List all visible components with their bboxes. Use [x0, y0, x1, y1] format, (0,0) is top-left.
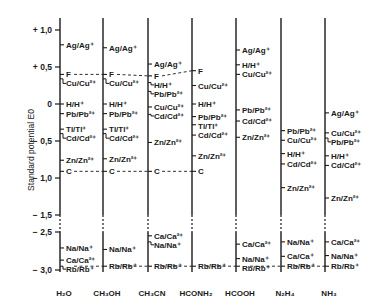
couple-label: Zn/Zn²⁺ [331, 194, 359, 203]
couple-label: Rb/Rb⁺ [66, 265, 94, 274]
solvent-label: CH₃OH [93, 289, 120, 298]
solvent-columns: Ag/Ag⁺FCu/Cu²⁺H/H⁺Pb/Pb²⁺Tl/Tl⁺Cd/Cd²⁺Zn… [60, 18, 361, 274]
y-tick-label: − 1,5 [33, 210, 52, 220]
couple-label: Cd/Cd²⁺ [198, 131, 228, 140]
solvent-labels: H₂OCH₃OHCH₃CNHCONH₂HCOOHN₂H₄NH₃ [56, 289, 337, 298]
couple-label: Rb/Rb⁺ [242, 264, 270, 273]
couple-label: Pb/Pb²⁺ [109, 110, 138, 119]
couple-label: H/H⁺ [242, 61, 260, 70]
couple-label: Ca/Ca²⁺ [331, 238, 360, 247]
couple-label: Ag/Ag⁺ [242, 46, 270, 55]
column-ch3oh: Ag/Ag⁺FCu/Cu²⁺H/H⁺Pb/Pb²⁺Tl/Tl⁺Cd/Cd²⁺Zn… [103, 18, 139, 272]
couple-label: Tl/Tl⁺ [66, 125, 86, 134]
couple-label: Na/Na⁺ [331, 252, 358, 261]
couple-label: Zn/Zn²⁺ [109, 155, 137, 164]
couple-label: F [154, 72, 159, 81]
couple-label: Tl/Tl⁺ [109, 125, 129, 134]
couple-label: F [198, 67, 203, 76]
couple-label: Rb/Rb⁺ [287, 262, 315, 271]
column-nh3: Ag/Ag⁺Cu/Cu²⁺Pb/Pb²⁺H/H⁺Cd/Cd²⁺Zn/Zn²⁺Ca… [325, 18, 361, 272]
couple-label: Cu/Cu²⁺ [198, 82, 228, 91]
column-h2o: Ag/Ag⁺FCu/Cu²⁺H/H⁺Pb/Pb²⁺Tl/Tl⁺Cd/Cd²⁺Zn… [60, 18, 96, 274]
column-hcooh: Ag/Ag⁺H/H⁺Cu/Cu²⁺Pb/Pb²⁺Cd/Cd²⁺Zn/Zn²⁺Ca… [236, 18, 272, 273]
y-axis: + 1,0+ 0,50− 0,5− 1,0− 1,5− 2,5− 3,0 [33, 25, 60, 275]
couple-label: C [109, 167, 115, 176]
couple-label: Cu/Cu²⁺ [287, 136, 317, 145]
couple-label: Cu/Cu²⁺ [66, 79, 96, 88]
couple-label: Ag/Ag⁺ [331, 109, 359, 118]
couple-label: Cd/Cd²⁺ [287, 160, 317, 169]
couple-label: Rb/Rb⁺ [198, 262, 226, 271]
couple-label: Pb/Pb²⁺ [154, 90, 183, 99]
solvent-label: H₂O [56, 289, 72, 298]
couple-label: Ca/Ca²⁺ [154, 232, 183, 241]
standard-potential-diagram: + 1,0+ 0,50− 0,5− 1,0− 1,5− 2,5− 3,0 Sta… [0, 0, 369, 307]
solvent-label: CH₃CN [139, 289, 166, 298]
couple-label: Zn/Zn²⁺ [287, 184, 315, 193]
couple-label: Ca/Ca²⁺ [242, 240, 271, 249]
couple-label: H/H⁺ [66, 100, 84, 109]
couple-label: H/H⁺ [154, 81, 172, 90]
couple-label: Rb/Rb⁺ [331, 262, 359, 271]
couple-label: Ag/Ag⁺ [154, 60, 182, 69]
column-hconh2: FCu/Cu²⁺H/H⁺Pb/Pb²⁺Tl/Tl⁺Cd/Cd²⁺Zn/Zn²⁺C… [192, 18, 228, 272]
couple-label: Cd/Cd²⁺ [109, 134, 139, 143]
couple-label: Cd/Cd²⁺ [154, 112, 184, 121]
column-ch3cn: Ag/Ag⁺FH/H⁺Pb/Pb²⁺Cu/Cu²⁺Cd/Cd²⁺Zn/Zn²⁺C… [148, 18, 184, 272]
y-tick-label: + 1,0 [33, 25, 52, 35]
couple-label: H/H⁺ [198, 100, 216, 109]
couple-label: Na/Na⁺ [154, 241, 181, 250]
couple-label: Zn/Zn²⁺ [242, 133, 270, 142]
reference-line-f [117, 74, 148, 75]
solvent-label: N₂H₄ [276, 289, 295, 298]
couple-label: Ag/Ag⁺ [109, 44, 137, 53]
couple-label: Pb/Pb²⁺ [287, 127, 316, 136]
solvent-label: HCONH₂ [180, 289, 213, 298]
couple-label: Na/Na⁺ [109, 245, 136, 254]
couple-label: Zn/Zn²⁺ [66, 156, 94, 165]
couple-label: Na/Na⁺ [242, 255, 269, 264]
couple-label: Na/Na⁺ [66, 244, 93, 253]
column-n2h4: Pb/Pb²⁺Cu/Cu²⁺H/H⁺Cd/Cd²⁺Zn/Zn²⁺Na/Na⁺Ca… [281, 18, 317, 272]
couple-label: Cd/Cd²⁺ [331, 161, 361, 170]
couple-label: Rb/Rb⁺ [109, 262, 137, 271]
couple-label: Ag/Ag⁺ [66, 41, 94, 50]
couple-label: F [66, 70, 71, 79]
couple-label: Na/Na⁺ [287, 238, 314, 247]
couple-label: H/H⁺ [331, 152, 349, 161]
couple-label: Tl/Tl⁺ [198, 122, 218, 131]
y-tick-label: + 0,5 [33, 62, 52, 72]
couple-label: Cu/Cu²⁺ [109, 79, 139, 88]
couple-label: Cu/Cu²⁺ [154, 103, 184, 112]
solvent-label: NH₃ [321, 289, 337, 298]
couple-label: Cu/Cu²⁺ [242, 70, 272, 79]
couple-label: Pb/Pb²⁺ [198, 113, 227, 122]
couple-label: Zn/Zn²⁺ [198, 152, 226, 161]
couple-label: Pb/Pb²⁺ [331, 138, 360, 147]
couple-label: Pb/Pb²⁺ [66, 110, 95, 119]
y-tick-label: − 2,5 [33, 227, 52, 237]
y-axis-label: Standard potential E0 [26, 109, 36, 191]
couple-label: Cd/Cd²⁺ [242, 117, 272, 126]
couple-label: H/H⁺ [287, 150, 305, 159]
couple-label: Ca/Ca⁺ [287, 252, 314, 261]
couple-label: C [66, 167, 72, 176]
solvent-label: HCOOH [225, 289, 255, 298]
couple-label: Cd/Cd²⁺ [66, 134, 96, 143]
y-tick-label: 0 [47, 99, 52, 109]
couple-label: Zn/Zn²⁺ [154, 138, 182, 147]
couple-label: Rb/Rb⁺ [154, 262, 182, 271]
couple-label: H/H⁺ [109, 100, 127, 109]
couple-label: C [154, 167, 160, 176]
y-axis-title: Standard potential E0 [26, 109, 36, 191]
couple-label: Ca/Ca²⁺ [66, 256, 95, 265]
couple-label: C [198, 167, 204, 176]
couple-label: Pb/Pb²⁺ [242, 106, 271, 115]
couple-label: Cu/Cu²⁺ [331, 129, 361, 138]
reference-line-f [162, 71, 192, 76]
y-tick-label: − 3,0 [33, 265, 52, 275]
couple-label: F [109, 70, 114, 79]
